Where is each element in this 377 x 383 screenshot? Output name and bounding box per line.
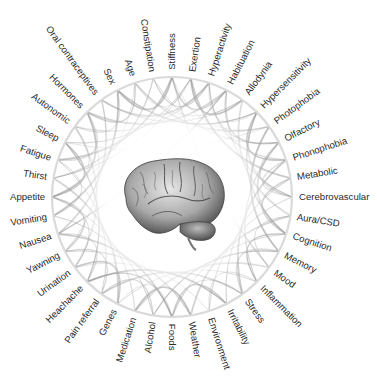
diagram-stage: StiffnessExertionHyperactivityHabituatio…	[0, 0, 377, 383]
node-label: Stiffness	[167, 33, 177, 70]
node-label: Appetite	[10, 192, 45, 202]
node-label: Foods	[167, 324, 177, 351]
node-label: Cerebrovascular	[299, 192, 369, 202]
